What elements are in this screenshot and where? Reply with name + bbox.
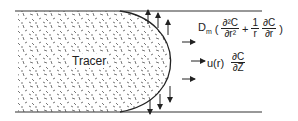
diffusion-coefficient: Dm	[198, 21, 212, 35]
open-paren: (	[215, 23, 219, 35]
axial-convection-term: u(r) ∂C ∂Z	[207, 52, 245, 73]
tracer-label: Tracer	[71, 54, 107, 68]
second-derivative-r: ∂²C ∂r²	[221, 18, 239, 39]
velocity-profile: u(r)	[207, 57, 224, 69]
plus-sign: +	[242, 23, 248, 35]
radial-diffusion-term: Dm ( ∂²C ∂r² + 1 r ∂C ∂r )	[198, 18, 283, 39]
first-derivative-r: ∂C ∂r	[262, 18, 276, 39]
derivative-z: ∂C ∂Z	[231, 52, 245, 73]
close-paren: )	[279, 23, 283, 35]
one-over-r: 1 r	[251, 18, 259, 39]
